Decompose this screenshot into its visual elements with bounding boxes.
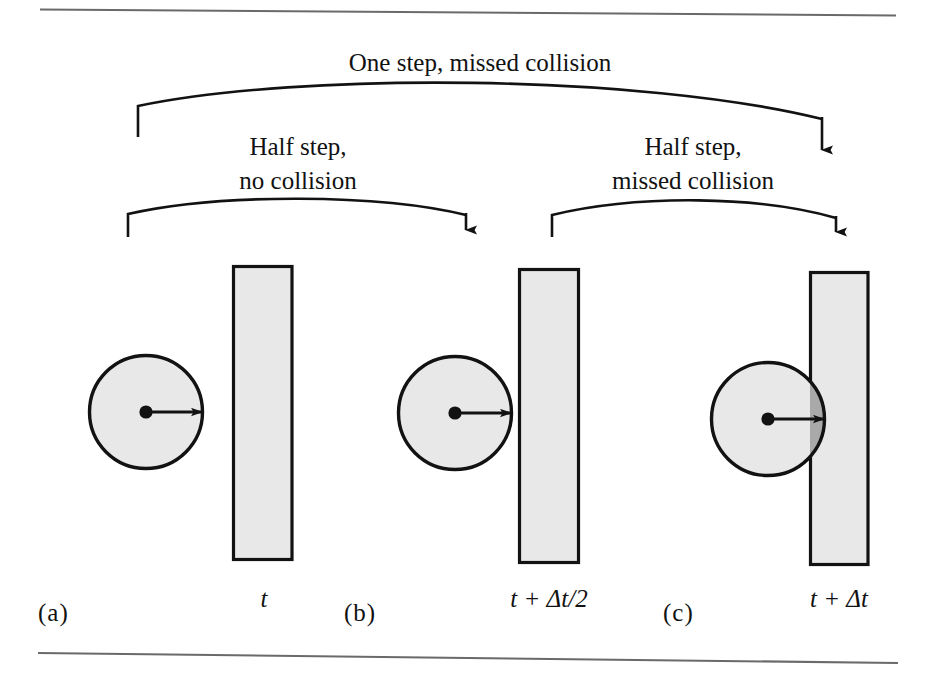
- one-step-label: One step, missed collision: [349, 50, 611, 75]
- half-step-left-arrow: [128, 199, 466, 237]
- time-label-a: t: [261, 586, 268, 611]
- panel-letter-b: (b): [344, 600, 376, 625]
- panel-b-graphics: [399, 270, 579, 563]
- half-step-right-arrow: [552, 200, 836, 237]
- figure-container: One step, missed collision Half step, no…: [0, 0, 930, 686]
- time-label-c: t + Δt: [810, 586, 868, 611]
- half-step-left-label-line2: no collision: [239, 168, 356, 193]
- figure-graphics: [0, 0, 930, 686]
- top-rule: [40, 10, 896, 16]
- panel-letter-a: (a): [38, 600, 69, 625]
- panel-c-graphics: [712, 273, 869, 565]
- half-step-right-label-line1: Half step,: [644, 134, 741, 159]
- half-step-right-label-line2: missed collision: [612, 168, 774, 193]
- bottom-rule: [38, 653, 898, 663]
- panel-a-graphics: [90, 267, 293, 560]
- wall-b: [520, 270, 579, 563]
- time-label-b: t + Δt/2: [510, 586, 587, 611]
- half-step-left-label-line1: Half step,: [249, 134, 346, 159]
- panel-letter-c: (c): [663, 600, 694, 625]
- wall-a: [234, 267, 293, 560]
